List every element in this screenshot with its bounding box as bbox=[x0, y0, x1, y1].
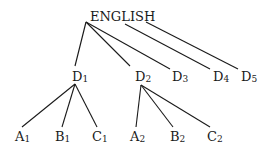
node-label: C bbox=[207, 129, 217, 144]
node-label: D bbox=[135, 69, 145, 84]
node-subscript: 2 bbox=[217, 134, 223, 144]
node-subscript: 1 bbox=[65, 134, 71, 144]
node-d2: D2 bbox=[135, 70, 151, 84]
root-node-english: ENGLISH bbox=[90, 10, 155, 23]
node-subscript: 4 bbox=[223, 74, 229, 84]
node-subscript: 2 bbox=[180, 134, 186, 144]
edge-d1-c1 bbox=[75, 84, 97, 127]
node-c1: C1 bbox=[92, 130, 108, 144]
node-label: D bbox=[172, 69, 182, 84]
node-subscript: 1 bbox=[82, 74, 88, 84]
node-label: B bbox=[170, 129, 180, 144]
node-subscript: 2 bbox=[145, 74, 151, 84]
edge-english-d4 bbox=[125, 24, 210, 69]
node-d1: D1 bbox=[72, 70, 88, 84]
node-b2: B2 bbox=[170, 130, 185, 144]
node-subscript: 2 bbox=[139, 134, 145, 144]
root-label: ENGLISH bbox=[90, 9, 155, 24]
edge-d1-a1 bbox=[22, 84, 75, 127]
edge-english-d1 bbox=[75, 22, 86, 66]
node-label: D bbox=[213, 69, 223, 84]
node-label: A bbox=[15, 129, 24, 144]
edge-d2-c2 bbox=[141, 85, 210, 127]
tree-diagram: ENGLISH D1D2D3D4D5A1B1C1A2B2C2 bbox=[0, 0, 265, 149]
edge-d1-b1 bbox=[62, 84, 75, 127]
node-subscript: 1 bbox=[24, 134, 30, 144]
node-b1: B1 bbox=[55, 130, 70, 144]
node-d5: D5 bbox=[241, 70, 257, 84]
node-subscript: 1 bbox=[102, 134, 108, 144]
node-a2: A2 bbox=[130, 130, 145, 144]
node-label: A bbox=[130, 129, 139, 144]
node-label: B bbox=[55, 129, 65, 144]
node-d4: D4 bbox=[213, 70, 229, 84]
node-d3: D3 bbox=[172, 70, 188, 84]
node-label: C bbox=[92, 129, 102, 144]
node-a1: A1 bbox=[15, 130, 30, 144]
node-label: D bbox=[241, 69, 251, 84]
node-subscript: 3 bbox=[182, 74, 188, 84]
node-label: D bbox=[72, 69, 82, 84]
edge-english-d2 bbox=[86, 22, 130, 66]
edge-english-d3 bbox=[86, 22, 170, 69]
node-subscript: 5 bbox=[251, 74, 257, 84]
node-c2: C2 bbox=[207, 130, 223, 144]
edge-english-d5 bbox=[146, 22, 238, 69]
edge-d2-b2 bbox=[141, 85, 173, 127]
edge-d2-a2 bbox=[136, 85, 141, 127]
